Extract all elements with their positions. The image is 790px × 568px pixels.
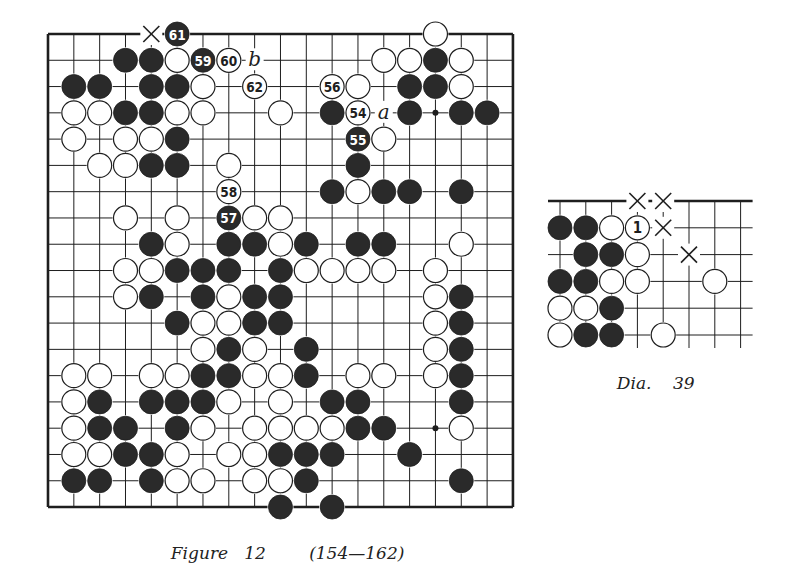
white-stone xyxy=(422,21,448,47)
black-stone xyxy=(599,322,625,348)
white-stone xyxy=(422,310,448,336)
black-stone xyxy=(138,74,164,100)
white-stone xyxy=(371,47,397,73)
white-stone xyxy=(216,310,242,336)
white-stone xyxy=(371,126,397,152)
white-stone xyxy=(448,231,474,257)
black-stone xyxy=(164,310,190,336)
white-stone xyxy=(216,152,242,178)
black-stone xyxy=(267,258,293,284)
white-stone xyxy=(547,322,573,348)
black-stone xyxy=(371,231,397,257)
white-stone xyxy=(448,415,474,441)
white-stone xyxy=(164,47,190,73)
black-stone xyxy=(319,494,345,520)
white-stone xyxy=(422,363,448,389)
main-go-board: ba615960625654555857 xyxy=(48,21,513,520)
white-stone-60: 60 xyxy=(216,47,242,73)
star-point xyxy=(432,425,438,431)
white-stone xyxy=(242,363,268,389)
black-stone-57: 57 xyxy=(216,205,242,231)
white-stone xyxy=(267,389,293,415)
black-stone xyxy=(190,258,216,284)
black-stone xyxy=(267,310,293,336)
white-stone xyxy=(242,441,268,467)
white-stone xyxy=(164,468,190,494)
black-stone xyxy=(216,336,242,362)
black-stone xyxy=(293,336,319,362)
diagram-caption-title: Dia. xyxy=(617,373,652,393)
white-stone xyxy=(164,363,190,389)
black-stone-55: 55 xyxy=(345,126,371,152)
black-stone-61: 61 xyxy=(164,21,190,47)
white-stone xyxy=(61,363,87,389)
white-stone xyxy=(345,258,371,284)
black-stone xyxy=(216,363,242,389)
black-stone xyxy=(164,74,190,100)
white-stone xyxy=(242,336,268,362)
move-number-label: 56 xyxy=(324,79,341,95)
white-stone xyxy=(242,415,268,441)
white-stone xyxy=(164,100,190,126)
white-stone xyxy=(112,126,138,152)
white-stone xyxy=(345,179,371,205)
white-stone xyxy=(448,74,474,100)
black-stone xyxy=(573,215,599,241)
white-stone xyxy=(624,268,650,294)
black-stone xyxy=(112,415,138,441)
black-stone xyxy=(345,152,371,178)
black-stone xyxy=(422,47,448,73)
white-stone xyxy=(61,389,87,415)
white-stone xyxy=(87,100,113,126)
move-number-label: 57 xyxy=(220,210,237,226)
white-stone xyxy=(267,415,293,441)
black-stone xyxy=(267,284,293,310)
white-stone xyxy=(624,242,650,268)
white-stone xyxy=(267,205,293,231)
move-number-label: 55 xyxy=(349,132,366,148)
black-stone xyxy=(345,415,371,441)
white-stone xyxy=(216,441,242,467)
black-stone-59: 59 xyxy=(190,47,216,73)
go-figure-canvas: ba615960625654555857 1 xyxy=(0,0,790,568)
star-point xyxy=(432,110,438,116)
black-stone xyxy=(216,231,242,257)
white-stone xyxy=(190,310,216,336)
black-stone xyxy=(87,74,113,100)
white-stone xyxy=(190,74,216,100)
black-stone xyxy=(474,100,500,126)
white-stone xyxy=(345,363,371,389)
black-stone xyxy=(164,389,190,415)
black-stone xyxy=(267,494,293,520)
black-stone xyxy=(61,468,87,494)
black-stone xyxy=(371,415,397,441)
black-stone xyxy=(448,336,474,362)
white-stone xyxy=(319,415,345,441)
move-number-label: 1 xyxy=(633,219,642,237)
black-stone xyxy=(190,389,216,415)
white-stone xyxy=(448,47,474,73)
black-stone xyxy=(345,231,371,257)
black-stone xyxy=(345,389,371,415)
black-stone xyxy=(164,126,190,152)
white-stone xyxy=(267,468,293,494)
white-stone xyxy=(112,258,138,284)
diagram-caption-number: 39 xyxy=(673,373,695,393)
white-stone xyxy=(138,363,164,389)
black-stone xyxy=(164,258,190,284)
white-stone xyxy=(267,363,293,389)
black-stone xyxy=(138,47,164,73)
figure-caption: Figure 12 (154—162) xyxy=(160,523,404,563)
black-stone xyxy=(547,215,573,241)
white-stone xyxy=(190,100,216,126)
white-stone xyxy=(164,205,190,231)
white-stone xyxy=(190,415,216,441)
white-stone xyxy=(371,363,397,389)
move-number-label: 60 xyxy=(220,53,237,69)
white-stone xyxy=(87,441,113,467)
black-stone xyxy=(319,389,345,415)
black-stone xyxy=(599,295,625,321)
figure-caption-title: Figure xyxy=(171,543,228,563)
black-stone xyxy=(573,322,599,348)
black-stone xyxy=(448,179,474,205)
